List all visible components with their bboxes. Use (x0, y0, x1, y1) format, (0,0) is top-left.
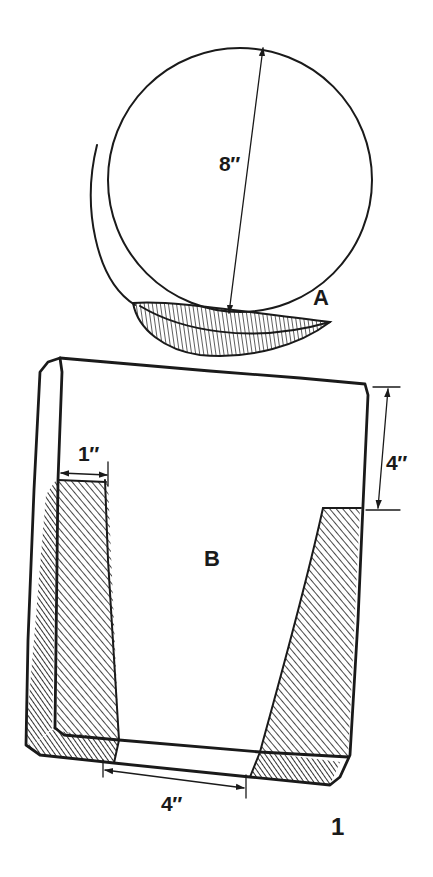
dim-4in-right-line (378, 389, 388, 508)
block-right-cut-hatch (260, 508, 360, 757)
dimension-4in-right (366, 387, 400, 510)
part-b-label: B (204, 548, 220, 570)
part-a-disc (91, 48, 372, 356)
dim-1in-line (61, 473, 107, 475)
diagram-figure: 8″ A 1″ 4″ B 4″ 1 (0, 0, 433, 877)
diagram-drawing (0, 0, 433, 877)
disc-outline (108, 48, 372, 312)
part-b-block (26, 358, 368, 785)
recess-depth-label: 4″ (386, 452, 407, 473)
dim-4in-bottom-line (105, 770, 244, 788)
diameter-dimension-line (229, 48, 263, 313)
bottom-opening-label: 4″ (161, 793, 182, 814)
block-left-face-hatch (26, 477, 58, 748)
diameter-label: 8″ (219, 153, 240, 174)
figure-number: 1 (331, 815, 344, 839)
wall-thickness-label: 1″ (78, 443, 99, 464)
block-left-cut-hatch (57, 480, 119, 740)
part-a-label: A (313, 287, 329, 309)
disc-back-edge (91, 145, 135, 305)
